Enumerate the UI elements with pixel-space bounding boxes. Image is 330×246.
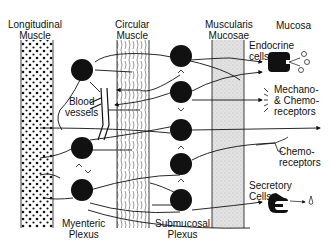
label-line: Muscle [8,30,62,41]
label-line: Muscle [115,30,149,41]
label-mechano-chemo-receptors: Mechano- & Chemo- receptors [274,84,319,117]
label-myenteric-plexus: Myenteric Plexus [62,218,105,240]
label-line: & Chemo- [274,95,319,106]
submucosal-neuron-4 [170,153,192,175]
label-line: Mucosa [276,20,311,31]
label-mucosa: Mucosa [276,20,311,31]
myenteric-neuron-3 [71,179,93,201]
label-submucosal-plexus: Submucosal Plexus [155,218,210,240]
myenteric-neurons [71,59,93,201]
label-circular-muscle: Circular Muscle [115,19,149,41]
label-line: Mechano- [274,84,319,95]
label-line: Submucosal [155,218,210,229]
label-line: Muscularis [205,19,253,30]
mechano-receptor-endings [264,88,268,112]
label-chemoreceptors: Chemo- receptors [279,146,321,168]
label-line: Cells [249,191,292,202]
submucosal-neuron-2 [170,81,192,103]
label-line: Longitudinal [8,19,62,30]
submucosal-neuron-1 [170,45,192,67]
label-muscularis-mucosae: Muscularis Mucosae [205,19,253,41]
label-line: Secretory [249,180,292,191]
label-line: Plexus [62,229,105,240]
label-line: Plexus [155,229,210,240]
submucosal-neuron-3 [170,119,192,141]
label-line: Blood [65,96,98,107]
label-line: Myenteric [62,218,105,229]
label-line: cells [249,51,294,62]
label-blood-vessels: Blood vessels [65,96,98,118]
label-line: Circular [115,19,149,30]
longitudinal-muscle-layer [21,40,53,228]
myenteric-neuron-2 [71,137,93,159]
label-line: receptors [274,106,319,117]
label-line: receptors [279,157,321,168]
label-line: Chemo- [279,146,321,157]
label-line: Endocrine [249,40,294,51]
label-longitudinal-muscle: Longitudinal Muscle [8,19,62,41]
label-line: vessels [65,107,98,118]
myenteric-neuron-1 [71,59,93,81]
label-line: Mucosae [205,30,253,41]
label-endocrine-cells: Endocrine cells [249,40,294,62]
submucosal-neuron-5 [170,189,192,211]
label-secretory-cells: Secretory Cells [249,180,292,202]
